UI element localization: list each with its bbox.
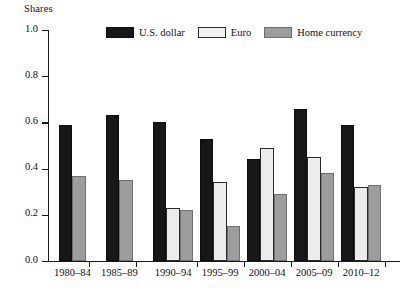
bar-eur-2000-04: [260, 148, 273, 261]
plot-area: 1.00.80.60.40.20.01980–841985–891990–941…: [48, 30, 400, 261]
y-axis-tick: 0.0: [42, 261, 48, 262]
bar-eur-2005-09: [307, 157, 320, 261]
y-axis-tick-label: 0.0: [25, 254, 38, 265]
bar-home-1995-99: [227, 226, 240, 261]
y-axis-tick: 0.4: [42, 169, 48, 170]
y-axis-tick: 0.2: [42, 215, 48, 216]
y-axis-tick-label: 0.2: [25, 207, 38, 218]
x-axis-tick: [338, 261, 339, 267]
x-axis-tick: [89, 261, 90, 267]
bar-home-1990-94: [180, 210, 193, 261]
x-axis-tick: [291, 261, 292, 267]
bar-eur-1995-99: [213, 182, 226, 261]
y-axis-title: Shares: [24, 3, 53, 14]
x-axis-tick-label: 1995–99: [202, 267, 239, 278]
y-axis-tick: 0.6: [42, 122, 48, 123]
y-axis-tick: 1.0: [42, 30, 48, 31]
x-axis-tick: [136, 261, 137, 267]
y-axis-line: [48, 30, 49, 261]
bar-eur-2010-12: [354, 187, 367, 261]
x-axis-line: [48, 261, 400, 262]
bar-usd-1990-94: [153, 122, 166, 261]
x-axis-tick-label: 1980–84: [54, 267, 91, 278]
x-axis-tick: [197, 261, 198, 267]
x-axis-tick-label: 2000–04: [249, 267, 286, 278]
x-axis-tick-label: 2010–12: [343, 267, 380, 278]
bar-home-2005-09: [321, 173, 334, 261]
bar-usd-2010-12: [341, 125, 354, 261]
y-axis-tick: 0.8: [42, 76, 48, 77]
x-axis-tick-label: 1985–89: [101, 267, 138, 278]
bar-home-2010-12: [368, 185, 381, 261]
bar-usd-1995-99: [200, 139, 213, 261]
bar-usd-1985-89: [106, 115, 119, 261]
y-axis-tick-label: 0.6: [25, 115, 38, 126]
x-axis-tick-label: 2005–09: [296, 267, 333, 278]
x-axis-tick-label: 1990–94: [155, 267, 192, 278]
bar-home-1980-84: [72, 176, 85, 261]
bar-home-1985-89: [119, 180, 132, 261]
y-axis-tick-label: 0.4: [25, 161, 38, 172]
bar-usd-2005-09: [294, 109, 307, 261]
y-axis-tick-label: 1.0: [25, 23, 38, 34]
bar-home-2000-04: [274, 194, 287, 261]
bar-chart: Shares U.S. dollarEuroHome currency 1.00…: [0, 0, 416, 294]
y-axis-tick-label: 0.8: [25, 69, 38, 80]
x-axis-tick: [385, 261, 386, 267]
bar-usd-2000-04: [247, 159, 260, 261]
bar-eur-1990-94: [166, 208, 179, 261]
bar-usd-1980-84: [59, 125, 72, 261]
x-axis-tick: [244, 261, 245, 267]
